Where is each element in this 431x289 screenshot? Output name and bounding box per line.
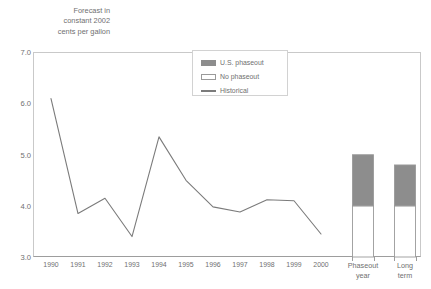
- y-tick-7: 7.0: [5, 48, 31, 57]
- x-tick-1995: 1995: [178, 261, 193, 268]
- axis-tick-phaseout-right: [374, 257, 375, 261]
- legend-swatch-open-icon: [201, 74, 216, 80]
- legend-item-us-phaseout: U.S. phaseout: [201, 57, 287, 68]
- axis-tick-longterm-right: [416, 257, 417, 261]
- x-tick-1996: 1996: [205, 261, 220, 268]
- bar-label-long-term: Long term: [379, 261, 431, 280]
- axis-tick-longterm-left: [394, 257, 395, 261]
- forecast-chart: Forecast in constant 2002 cents per gall…: [0, 0, 431, 289]
- legend-swatch-filled-icon: [201, 60, 216, 66]
- x-tick-1998: 1998: [259, 261, 274, 268]
- x-tick-1992: 1992: [97, 261, 112, 268]
- y-tick-5: 5.0: [5, 150, 31, 159]
- x-tick-1991: 1991: [70, 261, 85, 268]
- chart-legend: U.S. phaseout No phaseout Historical: [192, 50, 288, 96]
- y-tick-4: 4.0: [5, 201, 31, 210]
- legend-item-historical: Historical: [201, 85, 287, 96]
- y-tick-6: 6.0: [5, 99, 31, 108]
- x-tick-1999: 1999: [286, 261, 301, 268]
- legend-item-no-phaseout: No phaseout: [201, 71, 287, 82]
- axis-tick-phaseout-left: [352, 257, 353, 261]
- x-tick-1990: 1990: [43, 261, 58, 268]
- legend-swatch-line-icon: [201, 90, 216, 92]
- legend-label-no-phaseout: No phaseout: [220, 73, 259, 80]
- y-axis: 7.0 6.0 5.0 4.0 3.0: [0, 52, 31, 257]
- x-tick-1993: 1993: [124, 261, 139, 268]
- chart-axis-title: Forecast in constant 2002 cents per gall…: [14, 6, 110, 37]
- x-tick-1994: 1994: [151, 261, 166, 268]
- x-tick-2000: 2000: [313, 261, 328, 268]
- x-tick-1997: 1997: [232, 261, 247, 268]
- legend-label-historical: Historical: [220, 87, 248, 94]
- legend-label-us-phaseout: U.S. phaseout: [220, 59, 264, 66]
- y-tick-3: 3.0: [5, 253, 31, 262]
